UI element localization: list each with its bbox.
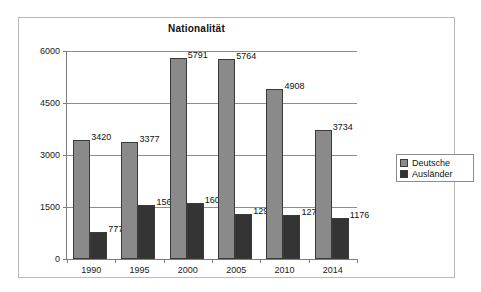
bar-group: 37341176	[309, 51, 357, 259]
bar-value-label: 3377	[139, 134, 159, 144]
x-axis-tick-mark	[212, 259, 213, 263]
chart-legend: Deutsche Ausländer	[396, 154, 474, 182]
bar-value-label: 5764	[236, 51, 256, 61]
bar-deutsche-2000[interactable]	[170, 58, 187, 259]
bar-ausländer-2010[interactable]	[283, 215, 300, 259]
x-axis-tick-mark	[309, 259, 310, 263]
bar-value-label: 3420	[91, 132, 111, 142]
bar-deutsche-2010[interactable]	[266, 89, 283, 259]
y-axis-tick-label: 1500	[40, 202, 60, 212]
x-axis-tick-label: 1990	[81, 265, 101, 275]
bar-group: 49081276	[260, 51, 308, 259]
bar-deutsche-2014[interactable]	[315, 130, 332, 259]
bar-ausländer-2014[interactable]	[332, 218, 349, 259]
plot-area: 01500300045006000 3420777337715675791160…	[66, 51, 357, 260]
bar-group: 3420777	[67, 51, 115, 259]
legend-swatch-auslaender	[400, 170, 408, 178]
x-axis-tick-label: 2014	[323, 265, 343, 275]
x-axis-tick-mark	[67, 259, 68, 263]
bar-ausländer-2005[interactable]	[235, 214, 252, 259]
bar-group: 33771567	[115, 51, 163, 259]
x-axis-tick-mark	[164, 259, 165, 263]
x-axis-tick-mark	[115, 259, 116, 263]
bar-ausländer-1990[interactable]	[90, 232, 107, 259]
y-axis-tick-label: 6000	[40, 46, 60, 56]
bar-deutsche-1990[interactable]	[73, 140, 90, 259]
bar-value-label: 1176	[350, 210, 369, 220]
bar-ausländer-1995[interactable]	[138, 205, 155, 259]
y-axis-tick-label: 0	[55, 254, 60, 264]
bar-value-label: 5791	[188, 50, 208, 60]
bar-deutsche-2005[interactable]	[218, 59, 235, 259]
legend-item-auslaender: Ausländer	[400, 168, 470, 179]
bar-deutsche-1995[interactable]	[121, 142, 138, 259]
x-axis-tick-label: 1995	[129, 265, 149, 275]
x-axis-tick-label: 2000	[178, 265, 198, 275]
chart-frame: Nationalität 01500300045006000 342077733…	[18, 17, 455, 278]
bar-group: 57641297	[212, 51, 260, 259]
x-axis-tick-label: 2005	[226, 265, 246, 275]
x-axis-tick-mark	[357, 259, 358, 263]
x-axis-tick-mark	[260, 259, 261, 263]
bar-group: 57911605	[164, 51, 212, 259]
bar-value-label: 4908	[284, 81, 304, 91]
legend-item-deutsche: Deutsche	[400, 157, 470, 168]
x-axis-tick-label: 2010	[274, 265, 294, 275]
legend-swatch-deutsche	[400, 159, 408, 167]
chart-title: Nationalität	[19, 23, 374, 34]
legend-label-auslaender: Ausländer	[412, 169, 453, 179]
y-axis-tick-label: 3000	[40, 150, 60, 160]
bar-ausländer-2000[interactable]	[187, 203, 204, 259]
bar-value-label: 3734	[333, 122, 353, 132]
legend-label-deutsche: Deutsche	[412, 158, 450, 168]
y-axis-tick-label: 4500	[40, 98, 60, 108]
